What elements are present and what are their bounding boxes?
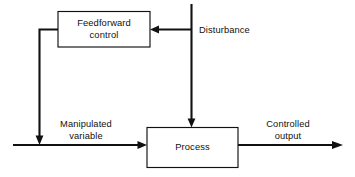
- controlled-output-label-line2: output: [275, 131, 302, 141]
- feedforward-control-label-line2: control: [90, 29, 119, 40]
- diagram-canvas: Feedforward control Process Disturbance …: [0, 0, 355, 177]
- manipulated-variable-label-line2: variable: [69, 131, 102, 141]
- disturbance-label: Disturbance: [199, 25, 250, 35]
- process-label: Process: [175, 141, 210, 152]
- feedforward-control-label-line1: Feedforward: [77, 17, 131, 28]
- disturbance-to-process-arrowhead: [188, 119, 196, 128]
- manipulated-variable-label-line1: Manipulated: [60, 119, 112, 129]
- feedforward-output-path: [40, 30, 59, 140]
- manipulated-variable-arrowhead: [138, 141, 148, 149]
- disturbance-to-feedforward-arrowhead: [150, 26, 159, 34]
- controlled-output-label-line1: Controlled: [266, 119, 309, 129]
- controlled-output-arrowhead: [332, 141, 343, 149]
- feedforward-control-diagram: Feedforward control Process Disturbance …: [0, 0, 355, 177]
- feedforward-output-arrowhead: [36, 136, 44, 146]
